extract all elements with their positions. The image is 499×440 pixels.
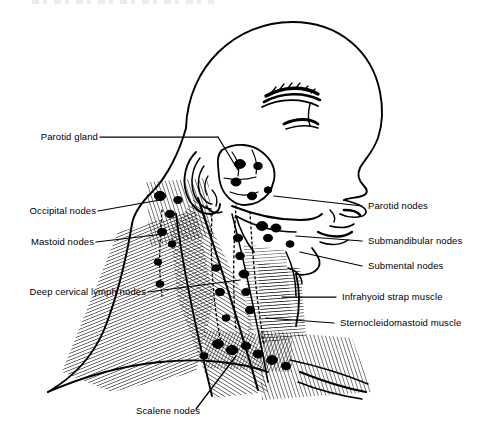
head-neck-lymph-node-illustration (0, 0, 499, 440)
label-sternocleidomastoid-muscle: Sternocleidomastoid muscle (340, 317, 461, 328)
leader-submental (300, 252, 362, 266)
label-submandibular-nodes: Submandibular nodes (368, 235, 462, 246)
label-infrahyoid-strap-muscle: Infrahyoid strap muscle (342, 291, 443, 302)
label-submental-nodes: Submental nodes (368, 260, 443, 271)
anatomy-figure: Parotid gland Occipital nodes Mastoid no… (0, 0, 499, 440)
label-scalene-nodes: Scalene nodes (136, 405, 200, 416)
label-parotid-nodes: Parotid nodes (368, 200, 428, 211)
label-occipital-nodes: Occipital nodes (0, 205, 99, 216)
label-deep-cervical-lymph-nodes: Deep cervical lymph nodes (0, 286, 149, 297)
label-mastoid-nodes: Mastoid nodes (0, 236, 97, 247)
label-parotid-gland: Parotid gland (0, 131, 101, 142)
